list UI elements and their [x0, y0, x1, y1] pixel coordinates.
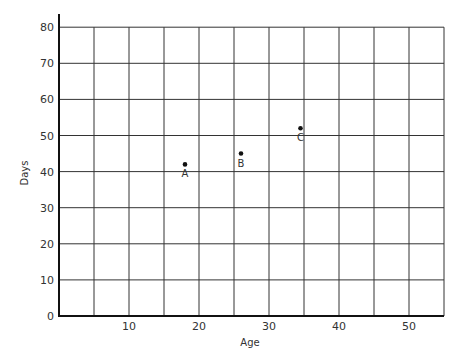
point-label: B: [238, 158, 245, 169]
point-marker: [183, 162, 188, 167]
point-marker: [298, 126, 303, 131]
grid-lines: [59, 27, 444, 316]
x-tick-label: 30: [262, 320, 276, 333]
data-point-b: B: [238, 151, 245, 168]
y-axis-label: Days: [19, 161, 30, 186]
x-tick-label: 40: [332, 320, 346, 333]
y-tick-label: 60: [40, 93, 54, 106]
x-tick-label: 20: [192, 320, 206, 333]
x-tick-label: 10: [122, 320, 136, 333]
scatter-chart: 01020304050607080 1020304050 ABC Age Day…: [0, 0, 461, 358]
y-tick-label: 10: [40, 274, 54, 287]
point-label: A: [182, 168, 189, 179]
y-axis-ticks: 01020304050607080: [40, 21, 54, 323]
y-tick-label: 0: [47, 310, 54, 323]
x-axis-ticks: 1020304050: [122, 320, 416, 333]
axes: [58, 14, 444, 317]
y-tick-label: 40: [40, 166, 54, 179]
data-point-a: A: [182, 162, 189, 179]
point-label: C: [297, 132, 304, 143]
y-tick-label: 50: [40, 130, 54, 143]
x-tick-label: 50: [402, 320, 416, 333]
point-marker: [239, 151, 244, 156]
y-tick-label: 80: [40, 21, 54, 34]
data-point-c: C: [297, 126, 304, 143]
y-tick-label: 70: [40, 57, 54, 70]
y-tick-label: 30: [40, 202, 54, 215]
x-axis-label: Age: [240, 337, 259, 348]
y-tick-label: 20: [40, 238, 54, 251]
